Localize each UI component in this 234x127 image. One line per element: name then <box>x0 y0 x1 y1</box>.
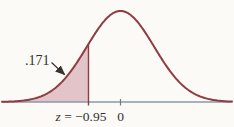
area-value-label: .171 <box>25 53 50 68</box>
distribution-chart: .171 z = −0.95 0 <box>0 0 234 127</box>
z-tick-label: z = −0.95 <box>55 109 107 124</box>
zero-tick-label: 0 <box>117 109 124 124</box>
z-value: = −0.95 <box>61 109 107 124</box>
normal-distribution-figure: .171 z = −0.95 0 <box>0 0 234 127</box>
pointer-arrow <box>52 63 65 75</box>
